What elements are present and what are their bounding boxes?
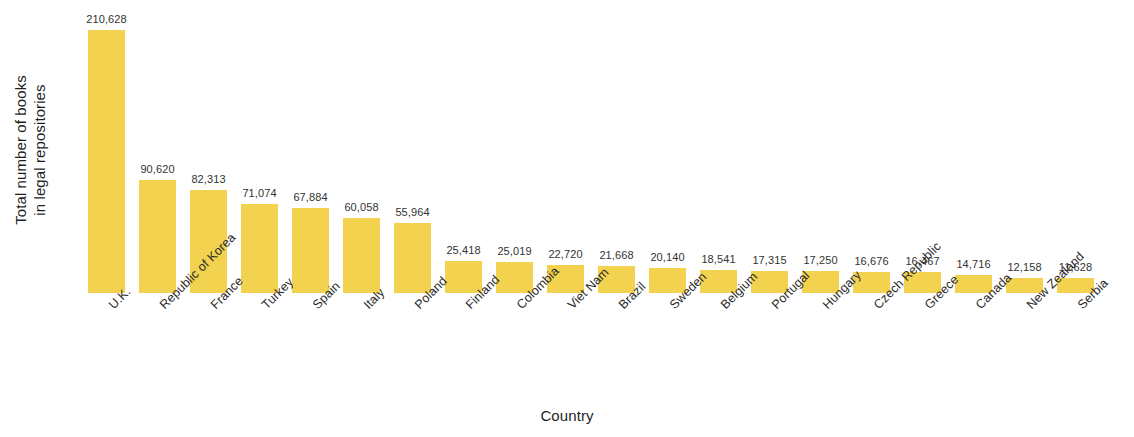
bar-group: 67,884: [285, 0, 336, 300]
bar-group: 55,964: [387, 0, 438, 300]
bar-group: 16,676: [846, 0, 897, 300]
y-axis-title: Total number of books in legal repositor…: [0, 0, 60, 300]
x-axis-tick-group: Colombia: [489, 296, 540, 406]
bar-group: 210,628: [81, 0, 132, 300]
x-axis-category-labels: U.K.Republic of KoreaFranceTurkeySpainIt…: [62, 296, 1124, 406]
x-axis-tick-group: Portugal: [744, 296, 795, 406]
x-axis-tick-group: Sweden: [642, 296, 693, 406]
bar-chart: Total number of books in legal repositor…: [0, 0, 1134, 437]
x-axis-tick-group: France: [183, 296, 234, 406]
x-axis-tick-group: Finland: [438, 296, 489, 406]
x-axis-tick-group: Belgium: [693, 296, 744, 406]
bar-group: 25,019: [489, 0, 540, 300]
y-axis-title-line-2: in legal repositories: [30, 75, 49, 225]
bar[interactable]: [292, 208, 329, 293]
x-axis-tick-group: Hungary: [795, 296, 846, 406]
x-axis-tick-group: Poland: [387, 296, 438, 406]
x-axis-tick-group: New Zealand: [999, 296, 1050, 406]
bar-group: 17,250: [795, 0, 846, 300]
bar[interactable]: [343, 218, 380, 293]
bar-group: 17,315: [744, 0, 795, 300]
bar-group: 18,541: [693, 0, 744, 300]
x-axis-tick-group: Czech Republic: [846, 296, 897, 406]
bar[interactable]: [139, 180, 176, 293]
bar-group: 22,720: [540, 0, 591, 300]
bar-value-label: 55,964: [381, 206, 444, 219]
bar-group: 12,158: [999, 0, 1050, 300]
bar-group: 71,074: [234, 0, 285, 300]
bar-group: 20,140: [642, 0, 693, 300]
bar-group: 90,620: [132, 0, 183, 300]
bar-value-label: 210,628: [75, 13, 138, 26]
x-axis-tick-group: Greece: [897, 296, 948, 406]
x-axis-tick-group: Spain: [285, 296, 336, 406]
y-axis-title-line-1: Total number of books: [11, 75, 30, 225]
x-axis-tick-group: Serbia: [1050, 296, 1101, 406]
bar-group: 60,058: [336, 0, 387, 300]
bar-value-label: 82,313: [177, 173, 240, 186]
x-axis-tick-group: U.K.: [81, 296, 132, 406]
x-axis-tick-group: Italy: [336, 296, 387, 406]
bar[interactable]: [88, 30, 125, 293]
x-axis-tick-group: Viet Nam: [540, 296, 591, 406]
bar[interactable]: [241, 204, 278, 293]
x-axis-tick-group: Brazil: [591, 296, 642, 406]
bar-group: 14,716: [948, 0, 999, 300]
x-axis-tick-group: Turkey: [234, 296, 285, 406]
bar-group: 25,418: [438, 0, 489, 300]
bar-group: 21,668: [591, 0, 642, 300]
x-axis-title: Country: [0, 406, 1134, 425]
bar[interactable]: [394, 223, 431, 293]
x-axis-tick-group: Canada: [948, 296, 999, 406]
x-axis-tick-group: Republic of Korea: [132, 296, 183, 406]
